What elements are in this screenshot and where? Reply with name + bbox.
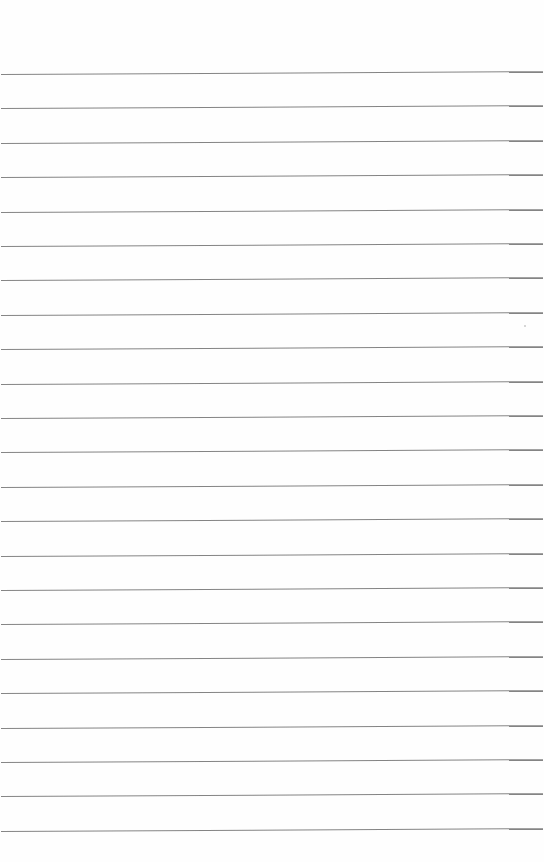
ruled-line [1,587,543,591]
ruled-line [1,621,543,625]
ruled-line [1,449,543,453]
paper-speck [524,325,526,327]
ruled-line [1,140,543,144]
ruled-line [1,725,543,729]
ruled-line [1,656,543,660]
ruled-line [1,174,543,178]
ruled-line [1,518,543,522]
ruled-line [1,209,543,213]
ruled-line [1,690,543,694]
ruled-line [1,243,543,247]
ruled-line [1,346,543,350]
ruled-line [1,415,543,419]
ruled-line [1,277,543,281]
ruled-line [1,828,543,832]
ruled-line [1,484,543,488]
lined-paper-sheet [0,0,544,862]
ruled-line [1,793,543,797]
ruled-line [1,312,543,316]
ruled-line [1,381,543,385]
ruled-line [1,553,543,557]
ruled-line [1,71,543,75]
ruled-line [1,759,543,763]
ruled-line [1,105,543,109]
